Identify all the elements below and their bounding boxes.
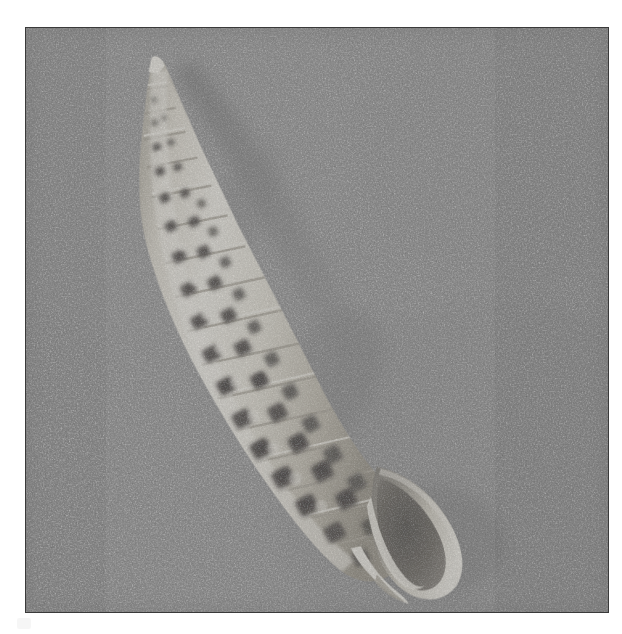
photo-page [0, 0, 622, 634]
photograph-plate [25, 27, 609, 613]
scan-artifact [17, 618, 31, 629]
shell-photograph [26, 28, 608, 612]
